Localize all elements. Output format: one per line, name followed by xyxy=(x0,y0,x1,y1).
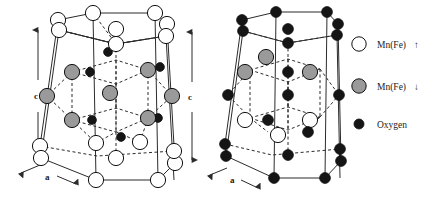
mnfe-down-atom xyxy=(140,110,155,125)
oxygen-atom xyxy=(334,90,345,101)
axis-a-right-upleft-arrow xyxy=(210,168,227,175)
up-arrow-icon: ↑ xyxy=(414,40,419,50)
mnfe-down-atom xyxy=(39,88,54,103)
oxygen-atom xyxy=(333,19,344,30)
oxygen-atom xyxy=(88,116,97,125)
axis-a-right: a xyxy=(210,168,258,188)
mnfe-up-atom xyxy=(302,112,317,127)
legend-item-mnfe-up: Mn(Fe) ↑ xyxy=(352,37,419,51)
mnfe-up-atom xyxy=(270,127,285,142)
oxygen-atom xyxy=(86,68,95,77)
mnfe-up-atom xyxy=(132,134,147,149)
mnfe-up-atom xyxy=(166,143,181,158)
left-cell-oxygen-atoms xyxy=(86,48,165,142)
mnfe-up-atom xyxy=(88,172,103,187)
oxygen-atom xyxy=(283,67,294,78)
oxygen-atom xyxy=(320,173,331,184)
axis-a-right-label: a xyxy=(230,175,235,185)
legend-label-mnfe-up: Mn(Fe) xyxy=(377,40,406,51)
mnfe-down-atom xyxy=(302,64,317,79)
atom-species-legend: Mn(Fe) ↑ Mn(Fe) ↓ Oxygen xyxy=(352,37,419,130)
oxygen-atom xyxy=(237,15,248,26)
oxygen-atom xyxy=(156,63,165,72)
down-arrow-icon: ↓ xyxy=(414,82,419,92)
mnfe-up-atom xyxy=(108,21,123,36)
legend-label-oxygen: Oxygen xyxy=(377,120,407,130)
mnfe-down-atom xyxy=(258,49,273,64)
mnfe-up-atom xyxy=(108,36,123,51)
hexagonal-unit-cell-left: c a xyxy=(21,5,183,187)
mnfe-up-atom xyxy=(88,135,103,150)
axis-c-right-label: c xyxy=(188,92,192,102)
oxygen-atom xyxy=(238,26,249,37)
mnfe-down-atom xyxy=(64,64,79,79)
oxygen-atom xyxy=(269,173,280,184)
mnfe-up-atom xyxy=(158,28,173,43)
oxygen-atom xyxy=(283,24,294,35)
oxygen-atom xyxy=(223,90,234,101)
oxygen-atom xyxy=(283,150,294,161)
hexagonal-unit-cell-right: c a xyxy=(188,7,346,188)
oxygen-atom xyxy=(271,7,282,18)
legend-gray-circle-icon xyxy=(352,79,366,93)
oxygen-atom xyxy=(117,133,126,142)
oxygen-atom xyxy=(221,151,232,162)
right-cell-oxygen-atoms xyxy=(220,7,347,184)
oxygen-atom xyxy=(332,30,343,41)
axis-c-right: c xyxy=(188,32,192,160)
oxygen-atom xyxy=(283,90,294,101)
mnfe-down-atom xyxy=(102,85,117,100)
legend-open-circle-icon xyxy=(352,37,366,51)
oxygen-atom xyxy=(263,115,274,126)
axis-a-left-downright-arrow xyxy=(57,176,76,184)
mnfe-down-atom xyxy=(164,88,179,103)
axis-a-left-label: a xyxy=(45,172,50,182)
mnfe-up-atom xyxy=(108,150,123,165)
axis-a-left: a xyxy=(21,165,76,184)
legend-item-mnfe-down: Mn(Fe) ↓ xyxy=(352,79,419,93)
mnfe-down-atom xyxy=(237,64,252,79)
mnfe-up-atom xyxy=(33,150,48,165)
axis-c-left-label: c xyxy=(34,91,38,101)
oxygen-atom xyxy=(220,139,231,150)
axis-a-right-downright-arrow xyxy=(241,180,258,188)
legend-label-mnfe-down: Mn(Fe) xyxy=(377,82,406,93)
oxygen-atom xyxy=(322,7,333,18)
oxygen-atom xyxy=(335,144,346,155)
axis-a-left-upleft-arrow xyxy=(21,165,40,173)
oxygen-atom xyxy=(336,156,347,167)
legend-filled-dot-icon xyxy=(354,119,364,129)
mnfe-up-atom xyxy=(237,112,252,127)
mnfe-up-atom xyxy=(85,5,100,20)
mnfe-up-atom xyxy=(150,172,165,187)
mnfe-up-atom xyxy=(51,22,66,37)
mnfe-down-atom xyxy=(64,112,79,127)
legend-item-oxygen: Oxygen xyxy=(354,119,407,130)
crystal-structure-figure: c a xyxy=(0,0,429,197)
oxygen-atom xyxy=(283,38,294,49)
mnfe-down-atom xyxy=(140,62,155,77)
mnfe-up-atom xyxy=(147,5,162,20)
oxygen-atom xyxy=(303,127,314,138)
